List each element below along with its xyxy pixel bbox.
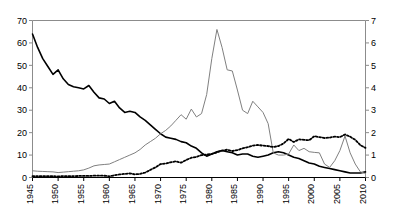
right-axis-tick-label: 1 <box>371 150 376 160</box>
x-axis-tick-label: 2000 <box>306 184 316 204</box>
left-axis-tick-label: 70 <box>17 16 27 26</box>
right-axis-tick-label: 3 <box>371 105 376 115</box>
x-axis-tick-label: 1975 <box>178 184 188 204</box>
x-axis-tick-label: 1990 <box>255 184 265 204</box>
x-axis-tick-label: 1985 <box>229 184 239 204</box>
line-chart: 0102030405060700123456719451950195519601… <box>0 0 400 213</box>
x-axis-tick-label: 1945 <box>25 184 35 204</box>
right-axis-tick-label: 5 <box>371 61 376 71</box>
chart-container: 0102030405060700123456719451950195519601… <box>0 0 400 213</box>
x-axis-tick-label: 1950 <box>50 184 60 204</box>
x-axis-tick-label: 1965 <box>127 184 137 204</box>
left-axis-tick-label: 30 <box>17 105 27 115</box>
left-axis-tick-label: 60 <box>17 38 27 48</box>
x-axis-tick-label: 1995 <box>281 184 291 204</box>
right-axis-tick-label: 2 <box>371 128 376 138</box>
left-axis-tick-label: 50 <box>17 61 27 71</box>
x-axis-tick-label: 1960 <box>101 184 111 204</box>
x-axis-tick-label: 2010 <box>358 184 368 204</box>
x-axis-tick-label: 1980 <box>204 184 214 204</box>
right-axis-tick-label: 7 <box>371 16 376 26</box>
x-axis-tick-label: 1955 <box>76 184 86 204</box>
series-line-2 <box>33 29 366 173</box>
x-axis-tick-label: 1970 <box>153 184 163 204</box>
left-axis-tick-label: 20 <box>17 128 27 138</box>
right-axis-tick-label: 6 <box>371 38 376 48</box>
left-axis-tick-label: 10 <box>17 150 27 160</box>
x-axis-tick-label: 2005 <box>332 184 342 204</box>
right-axis-tick-label: 4 <box>371 83 376 93</box>
left-axis-tick-label: 40 <box>17 83 27 93</box>
left-axis-tick-label: 0 <box>22 173 27 183</box>
right-axis-tick-label: 0 <box>371 173 376 183</box>
